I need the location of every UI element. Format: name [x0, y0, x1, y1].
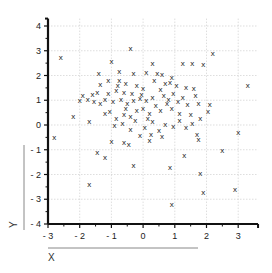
x-marker: x [103, 95, 107, 104]
x-marker: x [246, 81, 250, 90]
x-marker: x [132, 96, 136, 105]
x-marker: x [171, 89, 175, 98]
x-marker: x [86, 95, 90, 104]
x-marker: x [132, 161, 136, 170]
x-marker: x [128, 112, 132, 121]
x-tick-label: 0 [141, 231, 146, 241]
x-marker: x [140, 90, 144, 99]
x-tick-label: - 3 [43, 231, 54, 241]
x-marker: x [170, 200, 174, 209]
x-marker: x [141, 104, 145, 113]
x-marker: x [168, 163, 172, 172]
x-marker: x [189, 110, 193, 119]
x-tick-label: 1 [172, 231, 177, 241]
x-marker: x [198, 114, 202, 123]
data-points: xxxxxxxxxxxxxxxxxxxxxxxxxxxxxxxxxxxxxxxx… [52, 44, 249, 209]
x-marker: x [220, 146, 224, 155]
x-marker: x [184, 123, 188, 132]
x-marker: x [236, 128, 240, 137]
x-marker: x [182, 151, 186, 160]
x-marker: x [143, 123, 147, 132]
x-marker: x [206, 107, 210, 116]
x-marker: x [178, 109, 182, 118]
x-marker: x [124, 79, 128, 88]
x-marker: x [197, 135, 201, 144]
x-marker: x [160, 132, 164, 141]
x-marker: x [151, 93, 155, 102]
y-tick-label: 1 [36, 95, 41, 105]
y-tick-label: 0 [36, 120, 41, 130]
x-marker: x [135, 81, 139, 90]
x-marker: x [59, 53, 63, 62]
x-marker: x [71, 112, 75, 121]
x-marker: x [166, 95, 170, 104]
x-marker: x [119, 95, 123, 104]
scatter-chart: xxxxxxxxxxxxxxxxxxxxxxxxxxxxxxxxxxxxxxxx… [0, 0, 272, 273]
x-marker: x [120, 119, 124, 128]
y-axis-title: Y [8, 221, 19, 228]
x-marker: x [103, 153, 107, 162]
x-marker: x [201, 60, 205, 69]
x-marker: x [176, 97, 180, 106]
x-marker: x [135, 106, 139, 115]
x-marker: x [163, 120, 167, 129]
x-tick-label: 3 [236, 231, 241, 241]
x-marker: x [198, 169, 202, 178]
x-marker: x [162, 91, 166, 100]
x-tick-label: 2 [204, 231, 209, 241]
x-marker: x [87, 180, 91, 189]
x-marker: x [122, 138, 126, 147]
x-marker: x [154, 101, 158, 110]
x-marker: x [127, 140, 131, 149]
x-marker: x [233, 185, 237, 194]
x-tick-label: - 2 [74, 231, 85, 241]
x-marker: x [133, 116, 137, 125]
x-marker: x [95, 88, 99, 97]
y-tick-label: 4 [36, 21, 41, 31]
x-marker: x [181, 59, 185, 68]
x-axis-title: X [48, 252, 55, 263]
x-marker: x [128, 125, 132, 134]
x-marker: x [171, 122, 175, 131]
x-marker: x [103, 109, 107, 118]
x-marker: x [90, 90, 94, 99]
x-marker: x [87, 117, 91, 126]
x-marker: x [190, 59, 194, 68]
x-marker: x [181, 93, 185, 102]
y-tick-label: 2 [36, 71, 41, 81]
y-tick-label: - 3 [30, 194, 41, 204]
x-marker: x [98, 99, 102, 108]
x-marker: x [197, 99, 201, 108]
y-tick-label: 3 [36, 46, 41, 56]
x-marker: x [132, 69, 136, 78]
x-marker: x [159, 106, 163, 115]
x-marker: x [116, 81, 120, 90]
x-marker: x [152, 76, 156, 85]
y-tick-label: - 1 [30, 145, 41, 155]
x-marker: x [160, 70, 164, 79]
x-marker: x [185, 100, 189, 109]
x-marker: x [163, 79, 167, 88]
x-marker: x [190, 119, 194, 128]
x-marker: x [109, 57, 113, 66]
x-marker: x [52, 133, 56, 142]
x-marker: x [117, 67, 121, 76]
x-marker: x [144, 68, 148, 77]
x-marker: x [97, 69, 101, 78]
x-tick-label: - 1 [106, 231, 117, 241]
x-marker: x [108, 107, 112, 116]
x-marker: x [109, 137, 113, 146]
x-marker: x [211, 49, 215, 58]
x-marker: x [128, 44, 132, 53]
x-marker: x [151, 117, 155, 126]
x-marker: x [149, 130, 153, 139]
x-marker: x [78, 96, 82, 105]
x-marker: x [138, 131, 142, 140]
y-tick-label: - 2 [30, 170, 41, 180]
x-marker: x [106, 76, 110, 85]
x-marker: x [111, 97, 115, 106]
x-marker: x [168, 78, 172, 87]
x-marker: x [184, 83, 188, 92]
x-marker: x [146, 114, 150, 123]
x-marker: x [201, 188, 205, 197]
